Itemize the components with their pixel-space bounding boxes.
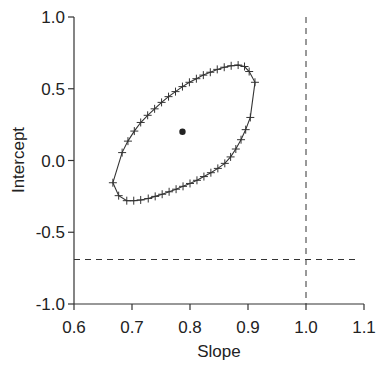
plus-marker-icon bbox=[165, 188, 173, 196]
y-axis-label: Intercept bbox=[9, 127, 28, 193]
plus-marker-icon bbox=[207, 169, 215, 177]
plus-marker-icon bbox=[213, 65, 221, 73]
plus-marker-icon bbox=[109, 179, 117, 187]
y-tick-label: 0.5 bbox=[41, 80, 65, 99]
x-tick-label: 1.1 bbox=[352, 318, 376, 337]
plus-marker-icon bbox=[118, 149, 126, 157]
plus-marker-icon bbox=[179, 182, 187, 190]
plus-marker-icon bbox=[251, 78, 259, 86]
plus-marker-icon bbox=[193, 176, 201, 184]
y-tick-label: 1.0 bbox=[41, 8, 65, 27]
x-tick-label: 0.6 bbox=[62, 318, 86, 337]
plus-marker-icon bbox=[137, 196, 145, 204]
plus-marker-icon bbox=[172, 185, 180, 193]
plus-marker-icon bbox=[232, 145, 240, 153]
ellipse-chart: 1.00.50.0-0.5-1.00.60.70.80.91.01.1 Slop… bbox=[0, 0, 383, 368]
plus-marker-icon bbox=[158, 190, 166, 198]
plus-marker-icon bbox=[234, 61, 242, 69]
plus-marker-icon bbox=[144, 195, 152, 203]
x-tick-label: 0.7 bbox=[120, 318, 144, 337]
plus-marker-icon bbox=[214, 164, 222, 172]
plus-marker-icon bbox=[220, 63, 228, 71]
plus-marker-icon bbox=[227, 62, 235, 70]
point-estimate-marker bbox=[179, 129, 185, 135]
axes: 1.00.50.0-0.5-1.00.60.70.80.91.01.1 bbox=[36, 8, 376, 337]
plus-marker-icon bbox=[130, 127, 138, 135]
plus-marker-icon bbox=[172, 88, 180, 96]
plus-marker-icon bbox=[185, 78, 193, 86]
plus-marker-icon bbox=[242, 126, 250, 134]
plus-marker-icon bbox=[246, 113, 254, 121]
plus-marker-icon bbox=[237, 136, 245, 144]
y-tick-label: -1.0 bbox=[36, 295, 65, 314]
y-tick-label: -0.5 bbox=[36, 223, 65, 242]
plot-area bbox=[74, 17, 358, 304]
x-tick-label: 0.9 bbox=[236, 318, 260, 337]
x-tick-label: 1.0 bbox=[294, 318, 318, 337]
plus-marker-icon bbox=[192, 75, 200, 83]
plus-marker-icon bbox=[199, 71, 207, 79]
plus-marker-icon bbox=[124, 137, 132, 145]
plus-marker-icon bbox=[178, 83, 186, 91]
plus-marker-icon bbox=[186, 179, 194, 187]
y-tick-label: 0.0 bbox=[41, 152, 65, 171]
plus-marker-icon bbox=[151, 192, 159, 200]
plus-marker-icon bbox=[130, 197, 138, 205]
plus-marker-icon bbox=[200, 173, 208, 181]
plus-marker-icon bbox=[206, 68, 214, 76]
plus-marker-icon bbox=[123, 197, 131, 205]
x-tick-label: 0.8 bbox=[178, 318, 202, 337]
plus-marker-icon bbox=[115, 192, 123, 200]
x-axis-label: Slope bbox=[197, 342, 240, 361]
